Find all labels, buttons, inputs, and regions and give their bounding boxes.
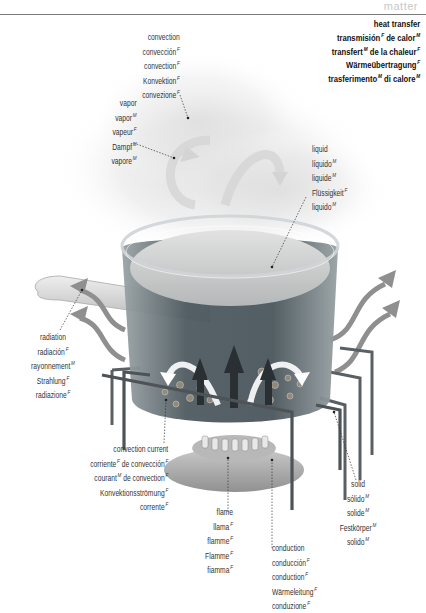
title-heat-transfer: heat transfer transmisiónF de calorM tra… [328,19,420,85]
label-solid: solid sólidoM solideM FestkörperM solido… [328,480,387,549]
label-convection-current: convection current corrienteF de convecc… [90,445,168,514]
label-radiation: radiation radiaciónF rayonnementM Strahl… [23,333,84,402]
label-conduction: conduction conducciónF conductionF Wärme… [272,544,317,613]
label-vapor: vapor vaporM vapeurF DampfM vaporeM [112,99,137,168]
label-convection: convection convecciónF convectionF Konve… [142,33,180,102]
label-flame: flame llamaF flammeF FlammeF fiammaF [205,508,233,577]
label-liquid: liquid líquidoM liquideM FlüssigkeitF li… [312,145,347,214]
